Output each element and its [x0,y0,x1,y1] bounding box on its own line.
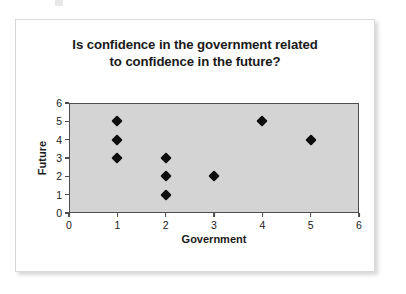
scan-artifact [55,0,63,6]
x-tick-2: 2 [163,213,169,231]
x-tick-mark [358,213,359,217]
x-tick-mark [165,213,166,217]
x-tick-label: 5 [308,219,314,231]
y-tick-3: 3 [56,152,69,164]
y-tick-label: 1 [56,189,62,201]
chart-title-line-2: to confidence in the future? [16,54,374,71]
plot-frame: 0123456 0123456 [69,103,359,213]
x-tick-mark [310,213,311,217]
y-tick-mark [65,121,69,122]
y-tick-mark [65,194,69,195]
y-tick-mark [65,102,69,103]
x-tick-0: 0 [66,213,72,231]
chart-title-line-1: Is confidence in the government related [16,37,374,54]
x-tick-mark [117,213,118,217]
x-tick-label: 2 [163,219,169,231]
y-tick-mark [65,157,69,158]
x-tick-mark [68,213,69,217]
x-tick-label: 0 [66,219,72,231]
x-tick-4: 4 [259,213,265,231]
x-tick-mark [262,213,263,217]
y-tick-label: 0 [56,207,62,219]
y-tick-label: 5 [56,115,62,127]
y-tick-mark [65,139,69,140]
x-tick-3: 3 [211,213,217,231]
chart-card: Is confidence in the government related … [15,19,375,272]
y-tick-2: 2 [56,170,69,182]
x-axis-title: Government [69,233,359,245]
y-axis-title: Future [36,103,50,213]
y-tick-1: 1 [56,189,69,201]
x-tick-label: 4 [259,219,265,231]
y-tick-label: 3 [56,152,62,164]
x-tick-5: 5 [308,213,314,231]
x-tick-label: 6 [356,219,362,231]
chart-title: Is confidence in the government related … [16,37,374,70]
y-tick-label: 4 [56,134,62,146]
x-tick-6: 6 [356,213,362,231]
y-tick-label: 6 [56,97,62,109]
x-tick-mark [213,213,214,217]
x-tick-label: 1 [114,219,120,231]
y-tick-mark [65,176,69,177]
x-tick-label: 3 [211,219,217,231]
y-tick-4: 4 [56,134,69,146]
y-tick-6: 6 [56,97,69,109]
y-tick-5: 5 [56,115,69,127]
y-tick-label: 2 [56,170,62,182]
x-tick-1: 1 [114,213,120,231]
